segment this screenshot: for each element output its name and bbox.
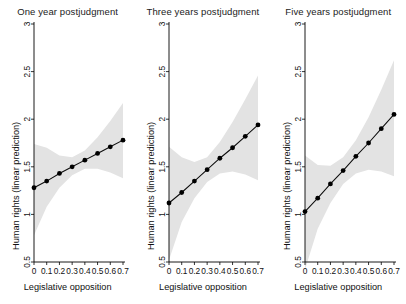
y-tick-label: 2 xyxy=(157,117,167,122)
data-point xyxy=(315,196,320,201)
x-tick-label: 0.4 xyxy=(350,266,362,276)
x-tick-label: 0.3 xyxy=(337,266,349,276)
y-axis-title: Human rights (linear prediction) xyxy=(282,122,292,250)
x-tick-label: 0.2 xyxy=(54,266,66,276)
data-point xyxy=(192,179,197,184)
y-tick-label: 2 xyxy=(22,117,32,122)
data-point xyxy=(44,179,49,184)
x-tick-label: 0.6 xyxy=(105,266,117,276)
y-tick-label: 1.5 xyxy=(293,161,303,173)
y-tick-label: 1.5 xyxy=(22,161,32,173)
y-tick-label: 2.5 xyxy=(22,65,32,77)
y-tick-label: 2.5 xyxy=(293,65,303,77)
data-point xyxy=(366,141,371,146)
chart-panel-2: Three years postjudgment0.511.522.5300.1… xyxy=(135,0,270,304)
y-tick-label: 2.5 xyxy=(157,65,167,77)
data-point xyxy=(230,145,235,150)
data-point xyxy=(256,123,261,128)
figure-root: One year postjudgment0.511.522.5300.10.2… xyxy=(0,0,406,304)
x-axis-title: Legislative opposition xyxy=(0,282,135,292)
x-tick-label: 0.7 xyxy=(388,266,400,276)
y-tick-label: 1.5 xyxy=(157,161,167,173)
x-tick-label: 0 xyxy=(302,266,307,276)
data-point xyxy=(57,171,62,176)
x-tick-label: 0.6 xyxy=(240,266,252,276)
data-point xyxy=(82,158,87,163)
x-tick-label: 0.3 xyxy=(66,266,78,276)
x-tick-label: 0 xyxy=(32,266,37,276)
data-point xyxy=(108,144,113,149)
x-tick-label: 0.5 xyxy=(362,266,374,276)
data-point xyxy=(340,168,345,173)
y-tick-label: 1 xyxy=(22,212,32,217)
chart-panel-3: Five years postjudgment0.511.522.5300.10… xyxy=(271,0,406,304)
x-tick-label: 0.4 xyxy=(79,266,91,276)
x-tick-label: 0.2 xyxy=(189,266,201,276)
data-point xyxy=(243,134,248,139)
x-tick-label: 0.1 xyxy=(312,266,324,276)
x-tick-label: 0.6 xyxy=(375,266,387,276)
x-tick-label: 0.4 xyxy=(214,266,226,276)
data-point xyxy=(218,156,223,161)
y-tick-label: 0.5 xyxy=(293,256,303,268)
confidence-band xyxy=(169,75,258,260)
y-tick-label: 3 xyxy=(22,21,32,26)
x-tick-label: 0.7 xyxy=(253,266,265,276)
data-point xyxy=(70,164,75,169)
confidence-band xyxy=(34,103,123,235)
data-point xyxy=(167,201,172,206)
x-tick-label: 0 xyxy=(167,266,172,276)
y-tick-label: 3 xyxy=(293,21,303,26)
x-tick-label: 0.5 xyxy=(92,266,104,276)
y-tick-label: 1 xyxy=(293,212,303,217)
data-point xyxy=(121,138,126,143)
chart-panel-1: One year postjudgment0.511.522.5300.10.2… xyxy=(0,0,135,304)
x-tick-label: 0.2 xyxy=(324,266,336,276)
y-axis-title: Human rights (linear prediction) xyxy=(11,122,21,250)
x-tick-label: 0.3 xyxy=(202,266,214,276)
data-point xyxy=(353,154,358,159)
data-point xyxy=(32,185,37,190)
y-tick-label: 1 xyxy=(157,212,167,217)
y-tick-label: 0.5 xyxy=(22,256,32,268)
x-axis-title: Legislative opposition xyxy=(271,282,406,292)
data-point xyxy=(328,182,333,187)
data-point xyxy=(302,209,307,214)
confidence-band xyxy=(305,60,394,269)
x-tick-label: 0.1 xyxy=(176,266,188,276)
x-axis-title: Legislative opposition xyxy=(135,282,270,292)
data-point xyxy=(180,190,185,195)
data-point xyxy=(391,112,396,117)
data-point xyxy=(95,151,100,156)
x-tick-label: 0.1 xyxy=(41,266,53,276)
x-tick-label: 0.5 xyxy=(227,266,239,276)
x-tick-label: 0.7 xyxy=(117,266,129,276)
data-point xyxy=(378,126,383,131)
y-axis-title: Human rights (linear prediction) xyxy=(146,122,156,250)
data-point xyxy=(205,167,210,172)
y-tick-label: 2 xyxy=(293,117,303,122)
y-tick-label: 3 xyxy=(157,21,167,26)
y-tick-label: 0.5 xyxy=(157,256,167,268)
